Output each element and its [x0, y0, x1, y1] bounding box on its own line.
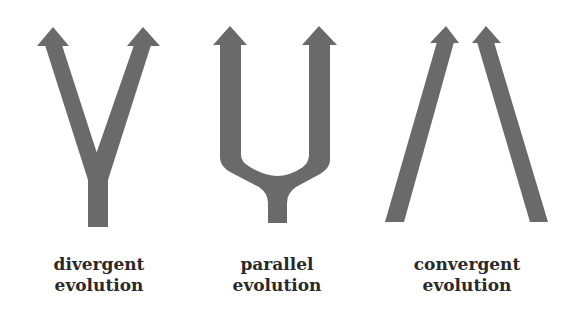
convergent-left-arrowhead-icon	[430, 26, 459, 43]
parallel-right-arrowhead-icon	[302, 26, 337, 45]
convergent-label: convergent evolution	[397, 254, 537, 296]
parallel-fork-body	[220, 44, 330, 223]
convergent-arrow-icon	[385, 26, 548, 222]
divergent-label-line2: evolution	[29, 275, 169, 296]
parallel-arrow-icon	[213, 26, 337, 223]
convergent-right-arrowhead-icon	[472, 26, 501, 43]
divergent-label: divergent evolution	[29, 254, 169, 296]
divergent-label-line1: divergent	[29, 254, 169, 275]
convergent-label-line2: evolution	[397, 275, 537, 296]
divergent-arrow-icon	[37, 27, 160, 227]
convergent-left-shaft	[385, 42, 454, 222]
parallel-label-line2: evolution	[207, 275, 347, 296]
convergent-label-line1: convergent	[397, 254, 537, 275]
convergent-right-shaft	[477, 42, 548, 222]
divergent-right-arrowhead-icon	[127, 27, 160, 46]
parallel-label: parallel evolution	[207, 254, 347, 296]
parallel-label-line1: parallel	[207, 254, 347, 275]
divergent-stem	[88, 165, 108, 227]
parallel-left-arrowhead-icon	[213, 26, 247, 45]
divergent-left-arrowhead-icon	[37, 27, 69, 46]
